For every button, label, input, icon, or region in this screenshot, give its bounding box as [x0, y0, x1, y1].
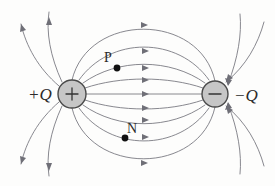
field-line-wide-lower [72, 107, 215, 159]
field-line-right-upper-near [228, 14, 241, 84]
dipole-field-diagram: +Q −Q P N [0, 0, 275, 186]
arrow-left-upper-near [46, 17, 52, 25]
dipole-figure: +Q −Q P N [0, 0, 275, 186]
field-line-right-lower-near [228, 104, 241, 174]
arrow-wide-lower [141, 160, 148, 166]
arrow-inner-upper [142, 77, 149, 83]
point-p-dot [114, 65, 121, 72]
arrow-mid-lower [142, 117, 149, 123]
negative-charge-label: −Q [234, 86, 258, 105]
arrow-wide-upper [141, 22, 148, 28]
positive-charge-label: +Q [28, 85, 52, 104]
point-n-label: N [127, 121, 137, 136]
field-line-left-upper-far [21, 24, 59, 86]
negative-charge[interactable] [202, 81, 228, 107]
field-line-left-lower-far [21, 102, 59, 164]
arrow-outer-upper [142, 48, 149, 54]
arrow-left-lower-near [46, 163, 52, 171]
arrow-outer-lower [142, 134, 149, 140]
point-p-label: P [104, 50, 112, 65]
arrow-left-lower-far [20, 156, 26, 164]
arrow-mid-upper [142, 65, 149, 71]
arrow-inner-lower [142, 105, 149, 111]
positive-charge[interactable] [58, 80, 86, 108]
arrow-axis [142, 91, 149, 97]
arrow-left-upper-far [20, 24, 26, 32]
field-line-wide-upper [72, 29, 215, 81]
